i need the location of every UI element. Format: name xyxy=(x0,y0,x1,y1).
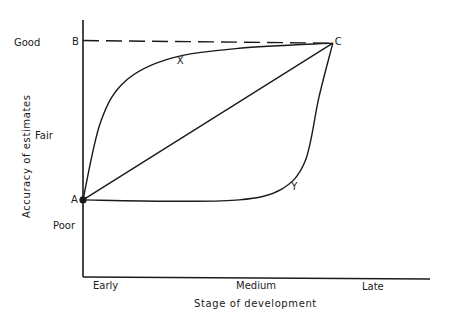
y-tick-fair: Fair xyxy=(35,130,54,141)
x-axis-line xyxy=(83,277,430,279)
y-tick-poor: Poor xyxy=(53,220,76,231)
point-label-a: A xyxy=(71,194,78,205)
x-tick-early: Early xyxy=(93,280,118,291)
point-label-c: C xyxy=(335,36,342,47)
curve-label-x: X xyxy=(177,55,184,66)
chart: ABCXY Good Fair Poor Early Medium Late S… xyxy=(0,0,456,322)
tick-labels: Good Fair Poor Early Medium Late xyxy=(14,37,384,292)
point-label-b: B xyxy=(72,36,79,47)
points-layer: ABCXY xyxy=(71,36,342,205)
y-tick-good: Good xyxy=(14,37,40,48)
x-tick-late: Late xyxy=(362,281,384,292)
y-axis-title: Accuracy of estimates xyxy=(21,95,32,218)
series-layer xyxy=(83,41,333,202)
curve-label-y: Y xyxy=(290,181,298,192)
series-line-a-c xyxy=(83,43,333,200)
x-axis-title: Stage of development xyxy=(194,298,317,309)
x-tick-medium: Medium xyxy=(236,280,276,291)
series-line-b-c xyxy=(83,41,333,44)
axes xyxy=(83,20,430,279)
point-marker-a xyxy=(79,196,86,203)
